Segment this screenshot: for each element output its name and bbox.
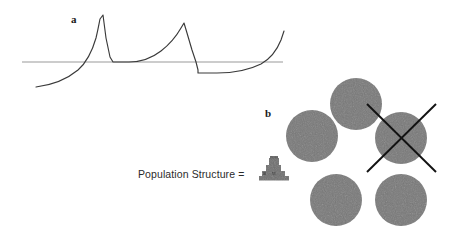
population-structure-label: Population Structure = [138,168,244,180]
population-circle-bottom-right [375,174,427,226]
stepped-pyramid-glyph [259,156,289,181]
panel-a: a [22,13,284,87]
figure-canvas: a b Population Structure = [0,0,457,231]
panel-b: b Population Structure = [138,78,436,226]
figure-svg: a b Population Structure = [0,0,457,231]
population-circle-bottom-left [310,174,362,226]
population-circle-group [286,78,427,226]
panel-b-label: b [265,107,271,119]
population-circle-left [286,110,338,162]
relaxation-oscillation-curve [36,15,284,87]
panel-a-label: a [71,13,77,25]
population-circle-top [330,78,382,130]
